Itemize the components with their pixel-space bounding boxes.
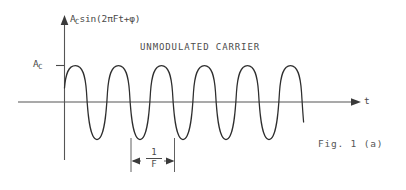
figure-title: UNMODULATED CARRIER — [140, 43, 260, 52]
figure-caption: Fig. 1 (a) — [318, 139, 383, 149]
amplitude-label-subscript: C — [38, 64, 42, 71]
amplitude-label: AC — [33, 59, 42, 71]
figure-container: ACsin(2πFt+φ) UNMODULATED CARRIER AC t 1… — [0, 0, 406, 190]
period-label: 1 F — [146, 148, 162, 169]
period-arrowhead-left — [132, 158, 141, 165]
period-arrowhead-right — [166, 158, 175, 165]
period-numerator: 1 — [146, 148, 162, 157]
y-axis-arrowhead — [61, 15, 69, 25]
figure-drawing — [0, 0, 406, 190]
y-axis-label: ACsin(2πFt+φ) — [70, 14, 140, 26]
t-axis — [18, 98, 361, 106]
y-axis-label-expression: sin(2πFt+φ) — [80, 13, 141, 24]
y-axis-label-subscript: C — [75, 19, 79, 26]
period-denominator: F — [146, 160, 162, 169]
t-axis-arrowhead — [351, 98, 361, 106]
t-axis-label: t — [364, 96, 370, 106]
